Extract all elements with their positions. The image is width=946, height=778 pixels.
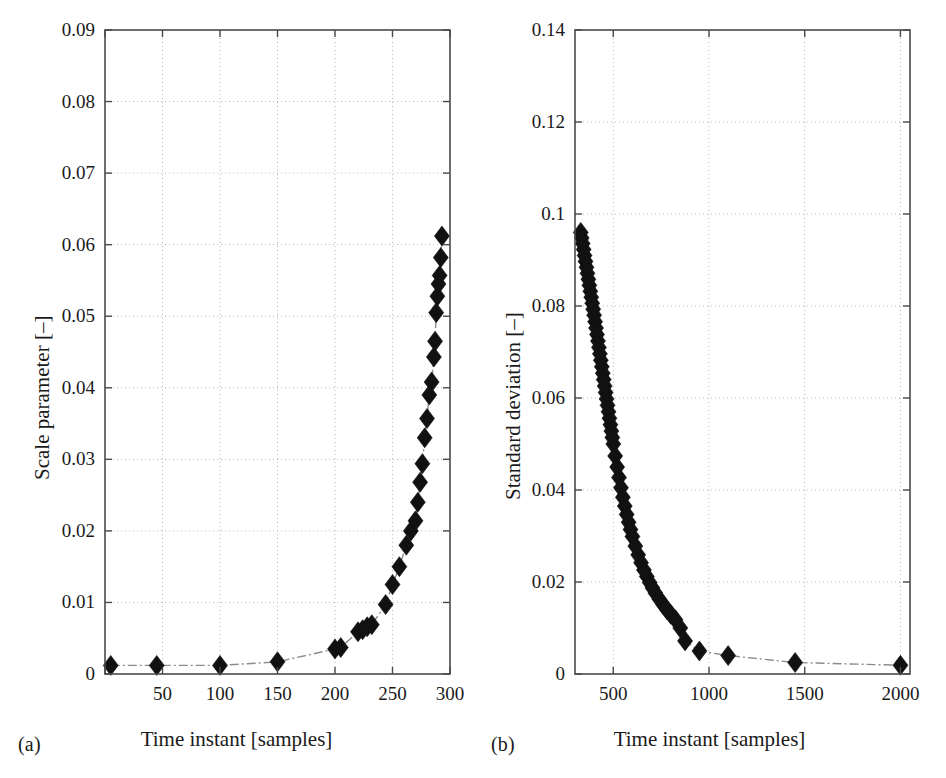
y-tick-label: 0.05 — [62, 305, 95, 327]
y-tick-label: 0 — [86, 663, 96, 685]
y-tick-label: 0.1 — [541, 203, 565, 225]
y-tick-label: 0 — [556, 663, 566, 685]
panel-caption-a: (a) — [18, 733, 41, 756]
x-axis-title-a: Time instant [samples] — [0, 727, 473, 752]
y-tick-label: 0.12 — [532, 111, 565, 133]
panel-b: Time instant [samples] Standard deviatio… — [473, 0, 946, 778]
x-tick-label: 1500 — [786, 683, 824, 705]
x-tick-label: 250 — [378, 683, 407, 705]
x-tick-label: 300 — [436, 683, 465, 705]
y-tick-label: 0.04 — [532, 479, 565, 501]
y-tick-label: 0.01 — [62, 591, 95, 613]
y-axis-title-b: Standard deviation [–] — [501, 312, 526, 500]
panel-caption-b: (b) — [491, 733, 515, 756]
y-tick-label: 0.02 — [62, 520, 95, 542]
x-tick-label: 200 — [321, 683, 350, 705]
y-tick-label: 0.06 — [532, 387, 565, 409]
y-tick-label: 0.08 — [62, 91, 95, 113]
x-tick-label: 50 — [153, 683, 172, 705]
x-tick-label: 1000 — [690, 683, 728, 705]
y-tick-label: 0.03 — [62, 448, 95, 470]
x-tick-label: 2000 — [881, 683, 919, 705]
x-axis-title-b: Time instant [samples] — [473, 727, 946, 752]
y-tick-label: 0.14 — [532, 19, 565, 41]
y-tick-label: 0.07 — [62, 162, 95, 184]
x-tick-label: 100 — [206, 683, 235, 705]
y-axis-title-a: Scale parameter [–] — [30, 316, 55, 480]
x-tick-label: 500 — [599, 683, 628, 705]
x-tick-label: 150 — [263, 683, 292, 705]
y-tick-label: 0.04 — [62, 377, 95, 399]
panel-a: Time instant [samples] Scale parameter [… — [0, 0, 473, 778]
y-tick-label: 0.09 — [62, 19, 95, 41]
two-panel-figure: Time instant [samples] Scale parameter [… — [0, 0, 946, 778]
y-tick-label: 0.06 — [62, 234, 95, 256]
y-tick-label: 0.02 — [532, 571, 565, 593]
y-tick-label: 0.08 — [532, 295, 565, 317]
